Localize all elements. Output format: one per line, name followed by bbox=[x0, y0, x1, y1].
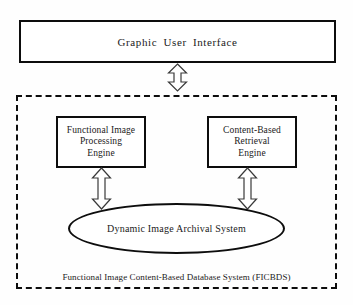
engine-label-line: Functional Image bbox=[67, 125, 135, 137]
connector-gui-to-system bbox=[167, 63, 188, 92]
connector-processing-engine-to-archive bbox=[91, 167, 112, 210]
connector-retrieval-engine-to-archive bbox=[237, 167, 258, 210]
engine-label-line: Processing bbox=[80, 136, 122, 148]
engine-label-line: Retrieval bbox=[234, 136, 270, 148]
functional-image-processing-engine-box: Functional Image Processing Engine bbox=[56, 116, 146, 168]
archival-system-label: Dynamic Image Archival System bbox=[107, 223, 246, 234]
double-headed-vertical-arrow-icon bbox=[237, 167, 258, 210]
graphic-user-interface-label: Graphic User Interface bbox=[118, 36, 238, 48]
engine-label-line: Engine bbox=[238, 148, 266, 160]
dynamic-image-archival-system-ellipse: Dynamic Image Archival System bbox=[68, 203, 285, 254]
ficbds-caption-label: Functional Image Content-Based Database … bbox=[62, 272, 290, 282]
engine-label-line: Content-Based bbox=[223, 125, 281, 137]
graphic-user-interface-box: Graphic User Interface bbox=[19, 20, 336, 63]
architecture-diagram: Graphic User Interface Functional Image … bbox=[0, 0, 353, 305]
double-headed-vertical-arrow-icon bbox=[167, 63, 188, 92]
double-headed-vertical-arrow-icon bbox=[91, 167, 112, 210]
content-based-retrieval-engine-box: Content-Based Retrieval Engine bbox=[207, 116, 297, 168]
ficbds-caption: Functional Image Content-Based Database … bbox=[16, 266, 337, 284]
engine-label-line: Engine bbox=[87, 148, 115, 160]
